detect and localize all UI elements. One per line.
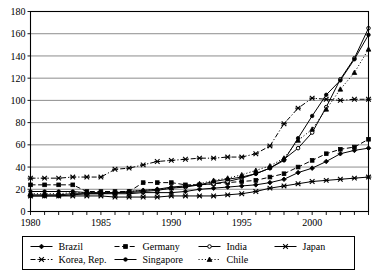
- data-point-marker: [208, 245, 212, 249]
- data-point-marker: [43, 183, 47, 187]
- data-point-marker: [211, 156, 217, 161]
- legend-label: Brazil: [59, 241, 84, 252]
- data-point-marker: [337, 177, 343, 182]
- data-point-marker: [324, 152, 328, 156]
- data-point-marker: [225, 155, 231, 160]
- data-point-marker: [281, 121, 287, 126]
- data-point-marker: [155, 181, 159, 185]
- data-point-marker: [197, 187, 202, 192]
- y-axis-tick-labels: 020406080100120140160180: [11, 6, 31, 217]
- data-point-marker: [338, 87, 343, 91]
- data-point-marker: [112, 167, 118, 172]
- data-point-marker: [295, 181, 301, 186]
- data-point-marker: [57, 183, 61, 187]
- data-point-marker: [183, 157, 189, 162]
- data-point-marker: [154, 159, 160, 164]
- data-point-marker: [268, 180, 273, 185]
- data-point-marker: [337, 98, 343, 103]
- y-axis-tick-label: 120: [11, 73, 26, 84]
- data-point-marker: [211, 186, 216, 191]
- data-point-marker: [168, 158, 174, 163]
- data-point-marker: [324, 159, 329, 164]
- data-point-marker: [124, 245, 128, 249]
- y-axis-tick-label: 0: [21, 206, 26, 217]
- data-point-marker: [352, 97, 358, 102]
- data-point-marker: [352, 176, 358, 181]
- data-point-marker: [254, 179, 258, 183]
- data-point-marker: [338, 147, 342, 151]
- series-korea-rep: [28, 96, 372, 181]
- x-axis-tick-labels: 19801985199019952000: [21, 217, 323, 228]
- legend-label: Chile: [227, 254, 249, 265]
- data-point-marker: [70, 175, 76, 180]
- gridlines: [31, 12, 369, 190]
- data-point-marker: [282, 177, 287, 182]
- data-point-marker: [323, 178, 329, 183]
- data-point-marker: [268, 175, 272, 179]
- data-point-marker: [197, 156, 203, 161]
- series-line: [31, 35, 369, 193]
- data-point-marker: [141, 181, 145, 185]
- x-axis-tick-label: 1985: [91, 217, 111, 228]
- y-axis-tick-label: 40: [16, 162, 26, 173]
- chart-legend: BrazilGermanyIndiaJapanKorea, Rep.Singap…: [23, 237, 355, 270]
- data-point-marker: [309, 96, 315, 101]
- data-point-marker: [211, 194, 217, 199]
- legend-label: Korea, Rep.: [59, 254, 107, 265]
- data-point-marker: [339, 79, 343, 83]
- data-point-marker: [239, 191, 245, 196]
- data-point-marker: [225, 193, 231, 198]
- data-point-marker: [338, 151, 343, 156]
- data-point-marker: [239, 184, 244, 189]
- series-line: [31, 98, 369, 178]
- legend-label: Singapore: [143, 254, 184, 265]
- data-point-marker: [310, 114, 314, 118]
- data-point-marker: [267, 186, 273, 191]
- y-axis-tick-label: 20: [16, 184, 26, 195]
- series-chile: [28, 47, 371, 196]
- data-point-marker: [296, 165, 300, 169]
- data-point-marker: [296, 146, 300, 150]
- x-axis-tick-label: 1980: [21, 217, 41, 228]
- data-point-marker: [56, 176, 62, 181]
- legend-label: Japan: [303, 241, 326, 252]
- data-point-marker: [183, 189, 188, 194]
- x-axis-tick-label: 1995: [232, 217, 252, 228]
- data-point-marker: [225, 185, 230, 190]
- line-chart: 020406080100120140160180 198019851990199…: [0, 0, 377, 274]
- legend-label: Germany: [143, 241, 180, 252]
- data-point-marker: [324, 93, 328, 97]
- data-point-marker: [126, 166, 132, 171]
- y-axis-tick-label: 60: [16, 139, 26, 150]
- series-brazil: [28, 146, 371, 198]
- data-point-marker: [282, 172, 286, 176]
- data-point-marker: [253, 189, 259, 194]
- data-point-marker: [169, 181, 173, 185]
- data-point-marker: [42, 176, 48, 181]
- data-series: [28, 26, 372, 199]
- data-point-marker: [353, 145, 357, 149]
- y-axis-tick-label: 140: [11, 51, 26, 62]
- x-axis-tick-label: 2000: [302, 217, 322, 228]
- data-point-marker: [84, 175, 90, 180]
- data-point-marker: [309, 179, 315, 184]
- data-point-marker: [254, 168, 259, 172]
- y-axis-tick-label: 80: [16, 117, 26, 128]
- chart-container: 020406080100120140160180 198019851990199…: [0, 0, 377, 274]
- data-point-marker: [295, 106, 301, 111]
- series-line: [31, 28, 369, 195]
- data-point-marker: [197, 194, 203, 199]
- data-point-marker: [353, 58, 357, 62]
- y-axis-tick-label: 100: [11, 95, 26, 106]
- data-point-marker: [71, 183, 75, 187]
- y-axis-tick-label: 160: [11, 28, 26, 39]
- data-point-marker: [98, 175, 104, 180]
- data-point-marker: [124, 258, 128, 262]
- data-point-marker: [281, 184, 287, 189]
- data-point-marker: [267, 144, 273, 149]
- y-axis-tick-label: 180: [11, 6, 26, 17]
- data-point-marker: [268, 164, 273, 168]
- legend-label: India: [227, 241, 248, 252]
- data-point-marker: [296, 170, 301, 175]
- series-singapore: [29, 33, 371, 194]
